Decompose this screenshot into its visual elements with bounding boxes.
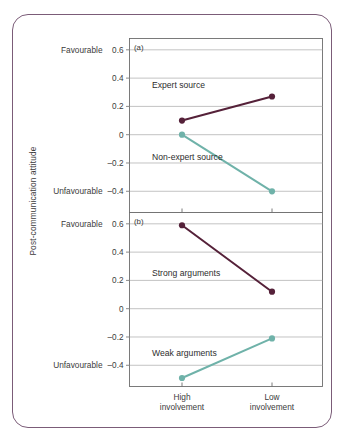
x-category-label: Low [264,392,280,402]
series-data-point [269,93,275,99]
x-axis-labels: HighinvolvementLowinvolvement [160,392,295,412]
y-tick-label: 0.4 [112,248,124,257]
y-tick-label: 0 [119,131,124,140]
y-tick-label: 0.4 [112,74,124,83]
series-data-point [269,335,275,341]
series-data-point [179,375,185,381]
y-tick-label: –0.2 [108,333,124,342]
chart-canvas: 0.60.40.20–0.2–0.4FavourableUnfavourable… [0,0,346,447]
figure-root: Post-communication attitude 0.60.40.20–0… [0,0,346,447]
y-anchor-unfavourable: Unfavourable [53,186,103,196]
y-tick-label: 0.6 [112,220,124,229]
y-tick-label: –0.2 [108,159,124,168]
series-annotation-label: Weak arguments [152,348,217,358]
series-annotation-label: Expert source [152,80,205,90]
x-category-label-line2: involvement [160,402,205,412]
panel-plot-area [130,39,323,213]
x-category-label-line2: involvement [250,402,295,412]
y-anchor-favourable: Favourable [61,45,103,55]
y-anchor-unfavourable: Unfavourable [53,360,103,370]
panel-letter-label: (a) [134,43,144,52]
series-data-point [179,132,185,138]
y-tick-label: 0 [119,305,124,314]
series-annotation-label: Non-expert source [152,152,223,162]
y-tick-label: 0.6 [112,46,124,55]
y-tick-label: –0.4 [108,187,124,196]
series-annotation-label: Strong arguments [152,268,220,278]
x-category-label: High [173,392,190,402]
series-data-point [179,117,185,123]
y-tick-label: 0.2 [112,102,124,111]
y-tick-label: 0.2 [112,276,124,285]
panel-plot-area [130,213,323,387]
chart-panel: 0.60.40.20–0.2–0.4FavourableUnfavourable… [53,39,322,213]
series-data-point [179,222,185,228]
series-data-point [269,289,275,295]
y-tick-label: –0.4 [108,361,124,370]
y-anchor-favourable: Favourable [61,219,103,229]
panel-letter-label: (b) [134,217,144,226]
series-data-point [269,188,275,194]
chart-panel: 0.60.40.20–0.2–0.4FavourableUnfavourable… [53,213,322,387]
